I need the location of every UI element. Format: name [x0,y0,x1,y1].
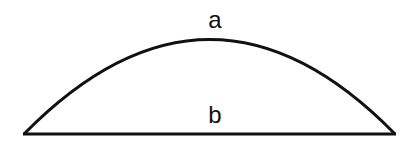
chord-label: b [208,101,221,128]
circular-segment-diagram: a b [0,0,417,147]
arc-label: a [208,6,222,33]
